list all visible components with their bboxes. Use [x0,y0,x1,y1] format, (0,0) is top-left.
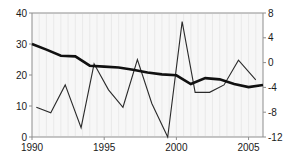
right-tick-label: 8 [268,8,274,19]
left-axis-tick-labels: 010203040 [16,8,28,143]
x-tick-label: 2000 [165,142,188,153]
x-axis-tick-labels: 1990199520002005 [21,142,260,153]
right-tick-label: 0 [268,57,274,68]
left-tick-label: 20 [16,70,28,81]
line-chart: 010203040 -12-8-4048 1990199520002005 [0,0,294,162]
left-tick-label: 10 [16,101,28,112]
right-axis-tick-labels: -12-8-4048 [268,8,283,143]
x-tick-label: 1995 [93,142,116,153]
right-tick-label: 4 [268,32,274,43]
right-tick-label: -12 [268,132,283,143]
left-tick-label: 30 [16,39,28,50]
right-tick-label: -8 [268,107,277,118]
x-tick-label: 2005 [237,142,260,153]
left-tick-label: 0 [21,132,27,143]
x-tick-label: 1990 [21,142,44,153]
chart-container: 010203040 -12-8-4048 1990199520002005 [0,0,294,162]
left-tick-label: 40 [16,8,28,19]
right-tick-label: -4 [268,82,277,93]
